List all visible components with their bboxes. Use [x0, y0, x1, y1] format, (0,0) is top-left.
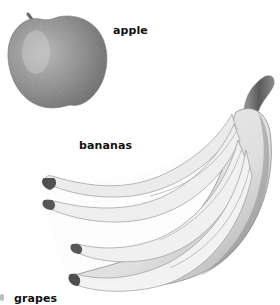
- grapes-label: grapes: [14, 293, 57, 304]
- bananas-drawing: [42, 76, 274, 292]
- grapes-drawing-partial: [0, 294, 4, 301]
- bananas-label: bananas: [79, 140, 132, 151]
- apple-label: apple: [113, 25, 148, 36]
- apple-drawing: [8, 14, 107, 108]
